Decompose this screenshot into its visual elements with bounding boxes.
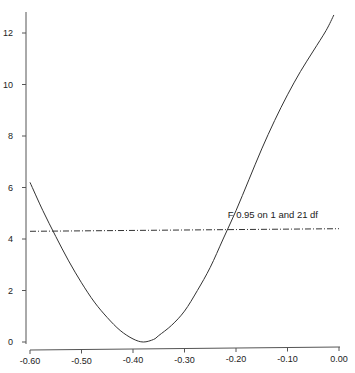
plot-series xyxy=(30,15,339,342)
y-tick-label: 4 xyxy=(8,234,13,244)
y-tick-label: 0 xyxy=(8,337,13,347)
y-tick-label: 2 xyxy=(8,286,13,296)
f-statistic-chart: 024681012-0.60-0.50-0.40-0.30-0.20-0.100… xyxy=(0,0,355,373)
x-tick-label: -0.50 xyxy=(71,356,92,366)
x-tick-label: 0.00 xyxy=(330,354,348,364)
y-tick-label: 6 xyxy=(8,183,13,193)
x-tick-label: -0.60 xyxy=(20,356,41,366)
axes: 024681012-0.60-0.50-0.40-0.30-0.20-0.100… xyxy=(3,12,348,366)
critical-value-line xyxy=(30,229,339,232)
x-tick-label: -0.30 xyxy=(174,355,195,365)
x-tick-label: -0.20 xyxy=(226,354,247,364)
critical-value-label: F 0.95 on 1 and 21 df xyxy=(228,209,319,220)
x-tick-label: -0.40 xyxy=(123,355,144,365)
x-tick-label: -0.10 xyxy=(277,354,298,364)
y-tick-label: 10 xyxy=(3,80,13,90)
annotations: F 0.95 on 1 and 21 df xyxy=(228,209,319,220)
y-tick-label: 12 xyxy=(3,28,13,38)
y-tick-label: 8 xyxy=(8,131,13,141)
f-curve xyxy=(30,15,334,342)
